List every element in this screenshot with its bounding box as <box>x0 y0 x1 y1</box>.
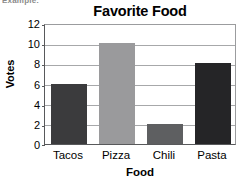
x-axis-tick-label: Pasta <box>197 148 226 162</box>
y-axis-tick-label: 6 <box>18 79 40 90</box>
y-axis-tick-mark <box>42 145 45 146</box>
bar-pizza <box>99 43 135 144</box>
plot-area <box>44 24 236 145</box>
y-axis-tick-mark <box>42 86 45 87</box>
x-axis-tick-label: Chili <box>153 148 175 162</box>
y-axis-tick-mark <box>42 45 45 46</box>
x-axis-tick-labels: TacosPizzaChiliPasta <box>44 148 236 164</box>
y-axis-title: Votes <box>4 46 16 102</box>
y-axis-tick-label: 12 <box>18 19 40 30</box>
y-axis-tick-mark <box>42 126 45 127</box>
x-axis-tick-label: Tacos <box>53 148 83 162</box>
gridline <box>45 45 235 46</box>
y-axis-tick-label: 10 <box>18 39 40 50</box>
x-axis-tick-label: Pizza <box>102 148 130 162</box>
bar-chili <box>147 124 183 144</box>
y-axis-tick-mark <box>42 106 45 107</box>
y-axis-tick-labels: 024681012 <box>18 24 40 145</box>
bar-pasta <box>195 63 231 144</box>
bar-tacos <box>51 84 87 145</box>
y-axis-tick-label: 2 <box>18 119 40 130</box>
y-axis-tick-label: 4 <box>18 99 40 110</box>
x-axis-title: Food <box>44 166 236 178</box>
y-axis-tick-label: 8 <box>18 59 40 70</box>
chart-title: Favorite Food <box>44 3 236 19</box>
y-axis-tick-label: 0 <box>18 140 40 151</box>
y-axis-tick-mark <box>42 25 45 26</box>
y-axis-tick-mark <box>42 65 45 66</box>
cropped-page-text-fragment: Example: <box>2 0 39 5</box>
